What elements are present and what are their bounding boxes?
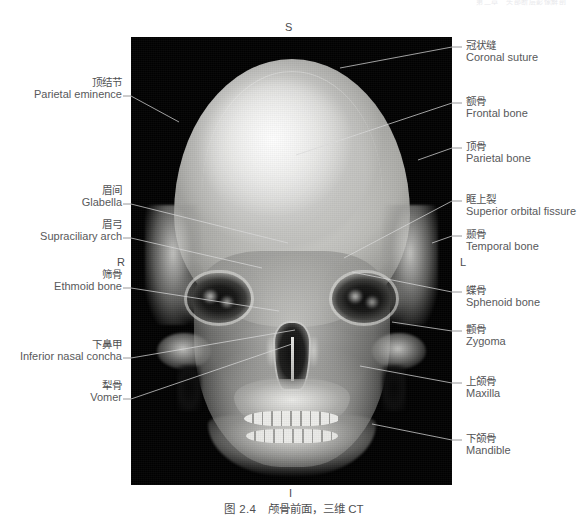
superior-orbital-fissure-right: [344, 286, 384, 312]
upper-dental-arch: [244, 411, 340, 426]
label-temporal-bone: 颞骨 Temporal bone: [466, 228, 539, 253]
label-coronal-suture: 冠状缝 Coronal suture: [466, 39, 538, 64]
label-zygoma-cn: 颧骨: [466, 323, 506, 335]
label-vomer: 犁骨 Vomer: [10, 379, 122, 404]
label-temporal-bone-cn: 颞骨: [466, 228, 539, 240]
label-glabella-cn: 眉间: [10, 184, 122, 196]
label-frontal-bone: 额骨 Frontal bone: [466, 95, 528, 120]
label-parietal-bone-en: Parietal bone: [466, 152, 531, 165]
label-mandible: 下颌骨 Mandible: [466, 432, 511, 457]
orbit-right: [332, 273, 396, 323]
label-superior-orbital-fissure: 眶上裂 Superior orbital fissure: [466, 193, 576, 218]
label-inferior-nasal-concha-en: Inferior nasal concha: [2, 350, 122, 363]
label-parietal-bone: 顶骨 Parietal bone: [466, 140, 531, 165]
label-frontal-bone-cn: 额骨: [466, 95, 528, 107]
label-sphenoid-bone: 蝶骨 Sphenoid bone: [466, 284, 540, 309]
label-sphenoid-bone-en: Sphenoid bone: [466, 296, 540, 309]
zygoma-left-arch: [157, 333, 211, 369]
superior-orbital-fissure-left: [199, 286, 239, 312]
label-temporal-bone-en: Temporal bone: [466, 240, 539, 253]
lower-dental-arch: [246, 429, 338, 443]
label-parietal-bone-cn: 顶骨: [466, 140, 531, 152]
label-inferior-nasal-concha: 下鼻甲 Inferior nasal concha: [2, 338, 122, 363]
inferior-nasal-concha-left: [266, 337, 277, 367]
label-maxilla-en: Maxilla: [466, 387, 500, 400]
label-coronal-suture-en: Coronal suture: [466, 51, 538, 64]
mandibular-notch-left: [177, 365, 201, 411]
label-supraciliary-arch-cn: 眉弓: [6, 218, 122, 230]
orientation-marker-left: L: [460, 256, 466, 268]
label-zygoma: 颧骨 Zygoma: [466, 323, 506, 348]
vomer-ridge: [291, 337, 294, 381]
label-parietal-eminence: 顶结节 Parietal eminence: [10, 76, 122, 101]
label-superior-orbital-fissure-en: Superior orbital fissure: [466, 205, 576, 218]
ct-image-panel: [131, 37, 452, 485]
orientation-marker-right: R: [117, 256, 125, 268]
label-supraciliary-arch: 眉弓 Supraciliary arch: [6, 218, 122, 243]
figure-area: 顶结节 Parietal eminence 眉间 Glabella 眉弓 Sup…: [0, 0, 588, 523]
label-supraciliary-arch-en: Supraciliary arch: [6, 230, 122, 243]
label-mandible-en: Mandible: [466, 444, 511, 457]
label-ethmoid-bone-cn: 筛骨: [10, 268, 122, 280]
label-superior-orbital-fissure-cn: 眶上裂: [466, 193, 576, 205]
label-glabella-en: Glabella: [10, 196, 122, 209]
label-vomer-cn: 犁骨: [10, 379, 122, 391]
label-glabella: 眉间 Glabella: [10, 184, 122, 209]
label-coronal-suture-cn: 冠状缝: [466, 39, 538, 51]
zygoma-right-arch: [372, 333, 426, 369]
mandibular-notch-right: [382, 365, 406, 411]
inferior-nasal-concha-right: [308, 337, 319, 367]
label-mandible-cn: 下颌骨: [466, 432, 511, 444]
label-sphenoid-bone-cn: 蝶骨: [466, 284, 540, 296]
label-maxilla: 上颌骨 Maxilla: [466, 375, 500, 400]
orientation-marker-inferior: I: [289, 487, 292, 499]
label-inferior-nasal-concha-cn: 下鼻甲: [2, 338, 122, 350]
label-ethmoid-bone-en: Ethmoid bone: [10, 280, 122, 293]
orbit-left: [187, 273, 251, 323]
label-parietal-eminence-en: Parietal eminence: [10, 88, 122, 101]
figure-caption-number: 图 2.4: [224, 503, 256, 515]
label-maxilla-cn: 上颌骨: [466, 375, 500, 387]
label-ethmoid-bone: 筛骨 Ethmoid bone: [10, 268, 122, 293]
figure-caption: 图 2.4颅骨前面，三维 CT: [0, 500, 588, 516]
label-zygoma-en: Zygoma: [466, 335, 506, 348]
figure-caption-text: 颅骨前面，三维 CT: [268, 503, 364, 515]
label-parietal-eminence-cn: 顶结节: [10, 76, 122, 88]
label-vomer-en: Vomer: [10, 391, 122, 404]
label-frontal-bone-en: Frontal bone: [466, 107, 528, 120]
orientation-marker-superior: S: [285, 21, 292, 33]
